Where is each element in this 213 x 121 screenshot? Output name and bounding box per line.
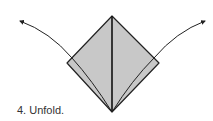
curved-arrow-left-icon [20, 21, 72, 58]
step-caption: 4. Unfold. [17, 104, 64, 117]
origami-step-diagram [0, 0, 213, 121]
folded-paper-diamond [67, 16, 159, 112]
curved-arrow-right-icon [154, 21, 205, 58]
